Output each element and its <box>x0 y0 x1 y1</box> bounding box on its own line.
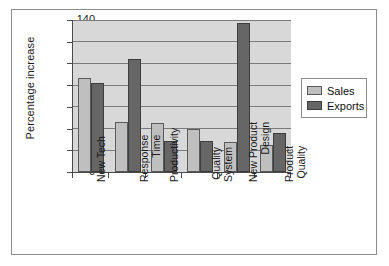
bar-sales-quality-system <box>187 129 200 172</box>
x-axis-label-response-time: ResponseTime <box>138 135 162 182</box>
chart-legend: Sales Exports <box>301 78 367 118</box>
gridline-60 <box>73 106 291 107</box>
legend-label-exports: Exports <box>327 100 364 112</box>
legend-item-sales: Sales <box>307 83 362 98</box>
x-axis-label-new-tech: New Tech <box>95 136 107 182</box>
x-label-line: Productivity <box>168 128 180 182</box>
x-tick-mark-1 <box>108 173 109 178</box>
x-tick-mark-3 <box>181 173 182 178</box>
x-label-line: Design <box>259 122 271 182</box>
chart-figure: Percentage increase 020406080100120140 N… <box>0 0 389 266</box>
x-axis-label-productivity: Productivity <box>168 128 180 182</box>
x-label-line: System <box>222 147 234 182</box>
x-label-line: Time <box>150 135 162 182</box>
legend-item-exports: Exports <box>307 98 362 113</box>
gridline-100 <box>73 63 291 64</box>
x-axis-label-new-product-design: New ProductDesign <box>247 122 271 182</box>
x-label-line: Product <box>283 146 295 182</box>
bar-sales-response-time <box>115 122 128 172</box>
x-label-line: Quality <box>210 147 222 182</box>
x-label-line: New Product <box>247 122 259 182</box>
x-label-line: New Tech <box>95 136 107 182</box>
gridline-80 <box>73 85 291 86</box>
bar-sales-new-tech <box>78 78 91 172</box>
legend-swatch-sales-icon <box>307 86 322 95</box>
gridline-140 <box>73 20 291 21</box>
x-label-line: Quality <box>295 146 307 182</box>
x-axis-label-quality-system: QualitySystem <box>210 147 234 182</box>
legend-label-sales: Sales <box>327 85 355 97</box>
y-axis-title: Percentage increase <box>24 8 36 168</box>
x-label-line: Response <box>138 135 150 182</box>
x-tick-mark-0 <box>72 173 73 178</box>
legend-swatch-exports-icon <box>307 101 322 110</box>
x-axis-label-product-quality: ProductQuality <box>283 146 307 182</box>
gridline-120 <box>73 41 291 42</box>
